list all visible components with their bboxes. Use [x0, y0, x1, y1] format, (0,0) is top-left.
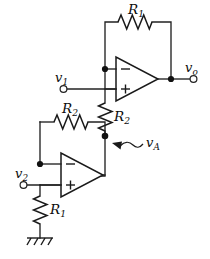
- label-v1: v1: [55, 71, 68, 84]
- ground-hatch-4: [48, 238, 52, 245]
- top-inverting-node: [102, 66, 108, 72]
- circuit-diagram: R1 R2 R2 R1 v1 v2 vo vA: [0, 0, 210, 259]
- v1-input-path: [60, 86, 116, 93]
- resistor-r1-top: [118, 15, 152, 29]
- label-r2-vertical: R2: [114, 110, 130, 124]
- r1-top-zigzag: [118, 15, 152, 29]
- top-opamp: [105, 57, 171, 101]
- label-v2: v2: [15, 167, 28, 180]
- schematic-canvas: [0, 0, 210, 259]
- bottom-inverting-node: [37, 161, 43, 167]
- output-node: [168, 76, 174, 82]
- label-va: vA: [146, 136, 160, 149]
- ground-hatch-3: [41, 238, 45, 245]
- r2-horizontal-branch: [40, 115, 105, 136]
- label-r2-horizontal: R2: [62, 102, 78, 116]
- bottom-opamp-triangle: [61, 153, 103, 197]
- r2-horizontal-zigzag: [54, 115, 88, 129]
- label-r1-top: R1: [128, 3, 144, 17]
- top-feedback-right-wire: [152, 22, 171, 78]
- va-arrow-head: [112, 142, 122, 150]
- label-vo: vo: [185, 61, 198, 74]
- va-node: [102, 133, 109, 140]
- resistor-r1-bottom: [34, 185, 48, 238]
- label-r1-bottom: R1: [50, 203, 66, 217]
- va-arrow-curve: [120, 142, 143, 147]
- top-opamp-triangle: [116, 57, 158, 101]
- bottom-opamp: [40, 153, 105, 197]
- ground-symbol: [27, 238, 53, 245]
- r1-bottom-zigzag: [34, 196, 48, 224]
- ground-hatch-2: [34, 238, 38, 245]
- va-pointer-arrow: [112, 142, 143, 150]
- ground-hatch-1: [27, 238, 31, 245]
